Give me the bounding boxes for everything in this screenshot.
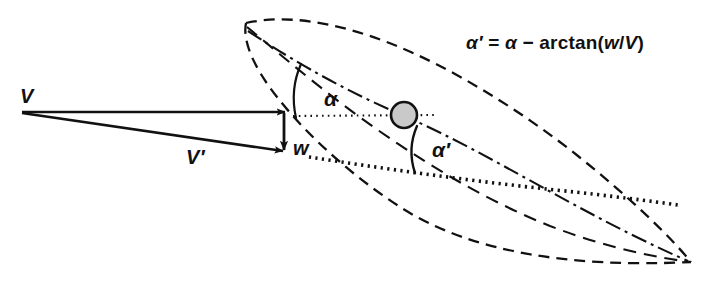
label-effective-velocity: V′ — [186, 147, 205, 167]
angle-arc-alpha-prime — [411, 126, 417, 173]
effective-velocity-vector — [22, 113, 283, 151]
equation-function-name: arctan — [539, 32, 597, 53]
mean-camber-line — [247, 27, 690, 262]
airfoil-upper-surface — [246, 19, 691, 262]
equation-numerator: w — [604, 32, 619, 53]
label-angle-of-attack-alpha: α — [324, 88, 337, 109]
equation-denominator: V — [625, 32, 638, 53]
quarter-chord-pivot-circle — [391, 102, 417, 128]
figure-canvas: V V′ w α α′ α′ = α − arctan(w/V) — [0, 0, 711, 286]
equation-close-paren: ) — [637, 32, 644, 53]
equation-rhs-alpha: α — [505, 32, 517, 53]
equation-alpha-prime: α′ = α − arctan(w/V) — [466, 33, 644, 52]
equation-minus: − — [517, 32, 539, 53]
label-downwash: w — [293, 138, 309, 158]
equation-lhs: α′ — [466, 32, 483, 53]
equation-equals: = — [483, 32, 505, 53]
label-effective-angle-of-attack-alpha-prime: α′ — [432, 139, 450, 160]
chord-line — [248, 31, 688, 261]
airfoil-lower-surface — [245, 23, 691, 263]
label-free-stream-velocity: V — [20, 86, 34, 106]
